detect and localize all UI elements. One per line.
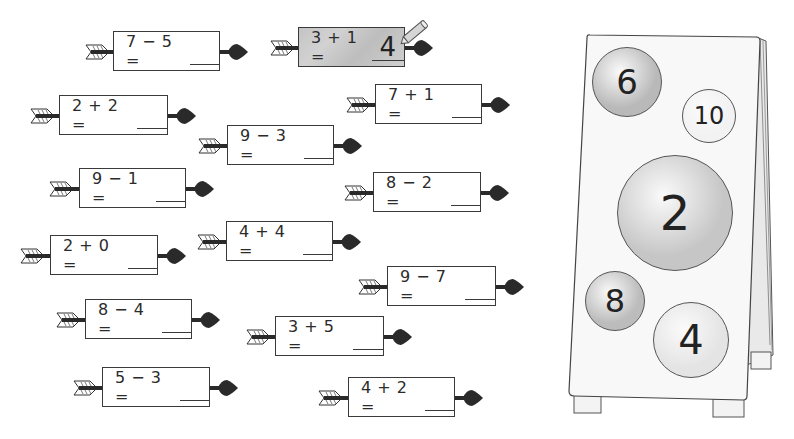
equation-box: 3 + 1 =4	[298, 27, 405, 67]
arrow-shaft	[217, 240, 226, 244]
equation-text: 3 + 1 =	[311, 28, 366, 66]
target-label: 4	[678, 317, 703, 363]
answer-blank[interactable]	[156, 187, 185, 202]
equation-box: 5 − 3 =	[102, 367, 210, 407]
equation-box: 2 + 0 =	[50, 235, 158, 275]
equation-text: 9 − 3 =	[240, 126, 296, 164]
target-8[interactable]: 8	[585, 271, 645, 331]
equation-arrow-eq-9-3: 9 − 3 =	[198, 125, 362, 167]
arrow-head-icon	[166, 247, 186, 265]
answer-blank[interactable]	[128, 254, 157, 269]
equation-text: 4 + 2 =	[361, 378, 417, 416]
equation-text: 3 + 5 =	[288, 317, 345, 355]
target-label: 2	[660, 185, 691, 241]
answer-blank[interactable]	[190, 50, 219, 65]
answer-blank[interactable]	[304, 144, 333, 159]
arrow-head-icon	[218, 379, 238, 397]
answer-blank[interactable]	[465, 285, 495, 300]
equation-text: 2 + 2 =	[72, 96, 129, 134]
equation-arrow-eq-2+0: 2 + 0 =	[20, 235, 186, 277]
equation-text: 5 − 3 =	[115, 368, 172, 406]
equation-box: 8 − 4 =	[85, 299, 192, 339]
equation-text: 9 − 7 =	[400, 267, 457, 305]
target-6[interactable]: 6	[592, 47, 662, 117]
equation-box: 9 − 3 =	[227, 125, 334, 165]
equation-box: 4 + 4 =	[226, 221, 333, 261]
target-label: 6	[616, 62, 638, 102]
equation-arrow-eq-2+2: 2 + 2 =	[30, 95, 196, 137]
answer-blank[interactable]	[451, 191, 480, 206]
equation-arrow-eq-3+5: 3 + 5 =	[246, 316, 412, 358]
arrow-shaft	[76, 318, 85, 322]
answer-blank[interactable]	[180, 386, 209, 401]
equation-text: 8 − 4 =	[98, 300, 154, 338]
arrow-shaft	[50, 114, 59, 118]
equation-text: 4 + 4 =	[239, 222, 295, 260]
equation-arrow-eq-5-3: 5 − 3 =	[73, 367, 238, 409]
arrow-shaft	[364, 191, 373, 195]
equation-text: 7 − 5 =	[126, 32, 182, 70]
equation-box: 4 + 2 =	[348, 377, 455, 417]
equation-box: 8 − 2 =	[373, 172, 481, 212]
equation-text: 9 − 1 =	[92, 169, 148, 207]
arrow-head-icon	[392, 328, 412, 346]
equation-arrow-eq-7-5: 7 − 5 =	[85, 31, 248, 73]
equation-arrow-eq-8-2: 8 − 2 =	[344, 172, 509, 214]
equation-box: 7 + 1 =	[375, 84, 482, 124]
equation-box: 9 − 1 =	[79, 168, 186, 208]
arrow-head-icon	[200, 311, 220, 329]
arrow-shaft	[218, 144, 227, 148]
target-4[interactable]: 4	[653, 302, 729, 378]
arrow-head-icon	[342, 137, 362, 155]
arrow-head-icon	[504, 278, 524, 296]
arrow-shaft	[69, 187, 79, 191]
equation-box: 9 − 7 =	[387, 266, 496, 306]
equation-text: 8 − 2 =	[386, 173, 443, 211]
equation-arrow-eq-8-4: 8 − 4 =	[56, 299, 220, 341]
arrow-shaft	[378, 285, 387, 289]
equation-box: 7 − 5 =	[113, 31, 220, 71]
target-2[interactable]: 2	[617, 155, 733, 271]
arrow-shaft	[290, 46, 298, 50]
target-board: 610284	[560, 25, 794, 439]
target-label: 10	[694, 102, 725, 130]
equation-arrow-eq-9-1: 9 − 1 =	[49, 168, 214, 210]
equation-text: 7 + 1 =	[388, 85, 444, 123]
arrow-head-icon	[228, 43, 248, 61]
equation-box: 2 + 2 =	[59, 95, 168, 135]
arrow-head-icon	[490, 96, 510, 114]
target-label: 8	[605, 282, 625, 320]
equation-text: 2 + 0 =	[63, 236, 120, 274]
arrow-shaft	[338, 396, 348, 400]
target-10[interactable]: 10	[682, 89, 736, 143]
answer-blank[interactable]	[303, 240, 332, 255]
answer-blank[interactable]	[425, 396, 454, 411]
equation-box: 3 + 5 =	[275, 316, 384, 356]
arrow-head-icon	[463, 389, 483, 407]
answer-blank[interactable]	[137, 114, 167, 129]
pencil-icon	[397, 17, 433, 51]
arrow-shaft	[266, 335, 275, 339]
answer-blank[interactable]	[452, 103, 481, 118]
arrow-head-icon	[194, 180, 214, 198]
arrow-head-icon	[176, 107, 196, 125]
arrow-shaft	[40, 254, 50, 258]
arrow-shaft	[105, 50, 113, 54]
equation-arrow-eq-7+1: 7 + 1 =	[346, 84, 510, 126]
equation-arrow-eq-9-7: 9 − 7 =	[358, 266, 524, 308]
arrow-shaft	[366, 103, 375, 107]
arrow-shaft	[93, 386, 102, 390]
arrow-head-icon	[489, 184, 509, 202]
answer-blank[interactable]	[162, 318, 191, 333]
equation-arrow-eq-4+4: 4 + 4 =	[197, 221, 361, 263]
equation-arrow-eq-4+2: 4 + 2 =	[318, 377, 483, 419]
arrow-head-icon	[341, 233, 361, 251]
answer-blank[interactable]	[353, 335, 383, 350]
